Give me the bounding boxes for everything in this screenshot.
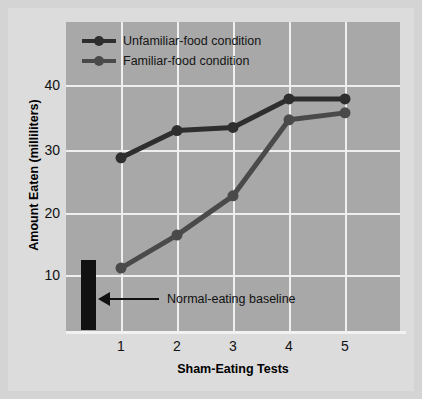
- x-tick-label-3: 3: [218, 338, 248, 354]
- x-tick-label-1: 1: [106, 338, 136, 354]
- data-point: [340, 93, 351, 104]
- x-tick-label-2: 2: [162, 338, 192, 354]
- x-axis-title: Sham-Eating Tests: [66, 362, 400, 376]
- data-point: [116, 263, 127, 274]
- data-point: [228, 190, 239, 201]
- legend-label: Familiar-food condition: [123, 54, 249, 68]
- legend-swatch-icon: [82, 54, 116, 68]
- x-axis-line: [66, 331, 406, 334]
- data-point: [340, 107, 351, 118]
- legend-swatch-icon: [82, 34, 116, 48]
- chart-figure: Normal-eating baseline Unfamiliar-food c…: [0, 0, 422, 399]
- data-point: [284, 93, 295, 104]
- data-point: [228, 122, 239, 133]
- legend-item-unfamiliar-food: Unfamiliar-food condition: [82, 32, 261, 49]
- data-point: [172, 125, 183, 136]
- data-point: [116, 152, 127, 163]
- data-point: [172, 230, 183, 241]
- x-tick-label-4: 4: [274, 338, 304, 354]
- legend-item-familiar-food: Familiar-food condition: [82, 52, 261, 69]
- data-point: [284, 114, 295, 125]
- y-axis-title: Amount Eaten (milliliters): [27, 75, 41, 275]
- plot-area: Normal-eating baseline Unfamiliar-food c…: [66, 22, 400, 332]
- legend-label: Unfamiliar-food condition: [123, 34, 261, 48]
- series-markers-unfamiliar-food: [116, 93, 351, 163]
- legend: Unfamiliar-food condition Familiar-food …: [82, 32, 261, 72]
- x-tick-label-5: 5: [330, 338, 360, 354]
